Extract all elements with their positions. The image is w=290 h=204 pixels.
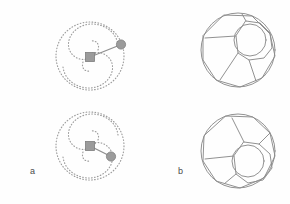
panel-label-b: b — [178, 167, 183, 176]
panel-b-top-diagram — [196, 8, 280, 94]
outline-radial-edge-upper-bottom — [232, 118, 244, 142]
panel-a-top-diagram — [46, 10, 146, 98]
cell-outline-top — [196, 8, 280, 94]
spiral-center-square-marker-bottom — [86, 142, 95, 151]
outline-radial-edge-lower-left-top — [220, 53, 238, 80]
outline-radial-edge-left-bottom — [205, 156, 234, 159]
outline-outer-polygon-bottom — [203, 116, 275, 188]
outline-radial-edge-lower-bottom — [224, 174, 236, 184]
figure-root: a b — [0, 0, 290, 204]
cell-outline-bottom — [196, 106, 280, 196]
spiral-end-circle-marker-bottom — [106, 152, 115, 161]
spiral-inner-wisp-upper — [91, 41, 99, 50]
outline-radial-edge-lower-right-top — [249, 60, 256, 81]
outline-inner-polygon-bottom — [234, 142, 272, 183]
spiral-center-square-marker-top — [86, 53, 95, 62]
spiral-diagram-top — [46, 10, 146, 98]
panel-label-a: a — [30, 167, 35, 176]
panel-a-bottom-diagram — [46, 105, 146, 193]
panel-b-bottom-diagram — [196, 106, 280, 196]
outline-radial-edge-upper-right-bottom — [259, 133, 270, 144]
outline-inner-circle-bottom — [232, 145, 264, 177]
outline-radial-edge-left-top — [205, 36, 236, 38]
spiral-end-circle-marker-top — [116, 40, 125, 49]
spiral-inner-wisp-upper-bottom — [91, 131, 99, 140]
spiral-diagram-bottom — [46, 105, 146, 193]
spiral-inner-wisp-lower-bottom — [82, 152, 90, 161]
outline-inner-circle-top — [234, 24, 266, 56]
spiral-inner-wisp-lower — [82, 62, 90, 71]
outline-radial-edge-top — [242, 14, 246, 21]
